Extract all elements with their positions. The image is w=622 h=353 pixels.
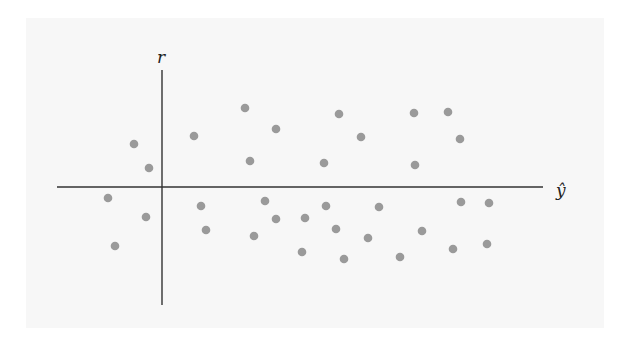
data-point [145, 164, 154, 173]
data-point [246, 157, 255, 166]
data-point [197, 202, 206, 211]
data-point [456, 135, 465, 144]
data-point [332, 225, 341, 234]
data-point [301, 214, 310, 223]
y-axis-label: r [157, 47, 166, 67]
data-point [272, 125, 281, 134]
data-point [396, 253, 405, 262]
data-point [202, 226, 211, 235]
data-point [410, 109, 419, 118]
data-point [261, 197, 270, 206]
data-point [375, 203, 384, 212]
data-point [190, 132, 199, 141]
data-point [130, 140, 139, 149]
residual-scatter-plot: r ŷ [0, 0, 622, 353]
data-point [298, 248, 307, 257]
data-point [444, 108, 453, 117]
data-point [250, 232, 259, 241]
data-point [457, 198, 466, 207]
data-point [272, 215, 281, 224]
data-point [320, 159, 329, 168]
data-point [449, 245, 458, 254]
data-point [485, 199, 494, 208]
x-axis-label: ŷ [555, 180, 566, 200]
data-point [322, 202, 331, 211]
data-point [364, 234, 373, 243]
data-point [142, 213, 151, 222]
axes [57, 70, 543, 305]
data-point [418, 227, 427, 236]
data-point [335, 110, 344, 119]
data-point [111, 242, 120, 251]
data-point [411, 161, 420, 170]
data-point [241, 104, 250, 113]
data-point [483, 240, 492, 249]
data-point [104, 194, 113, 203]
data-point [340, 255, 349, 264]
data-point [357, 133, 366, 142]
